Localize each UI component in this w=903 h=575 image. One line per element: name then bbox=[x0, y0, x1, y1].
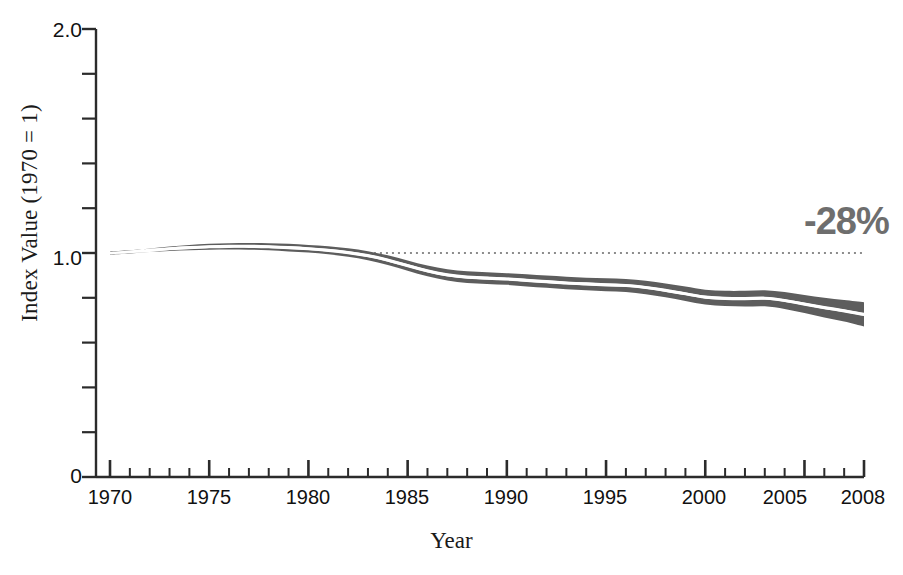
axis-lines bbox=[96, 29, 864, 477]
chart-figure: Index Value (1970 = 1) Year 2.0 1.0 0 19… bbox=[0, 0, 903, 575]
x-axis-ticks bbox=[110, 460, 864, 477]
plot-area bbox=[0, 0, 903, 575]
uncertainty-band-lower bbox=[110, 248, 864, 327]
y-axis-ticks bbox=[82, 29, 96, 477]
